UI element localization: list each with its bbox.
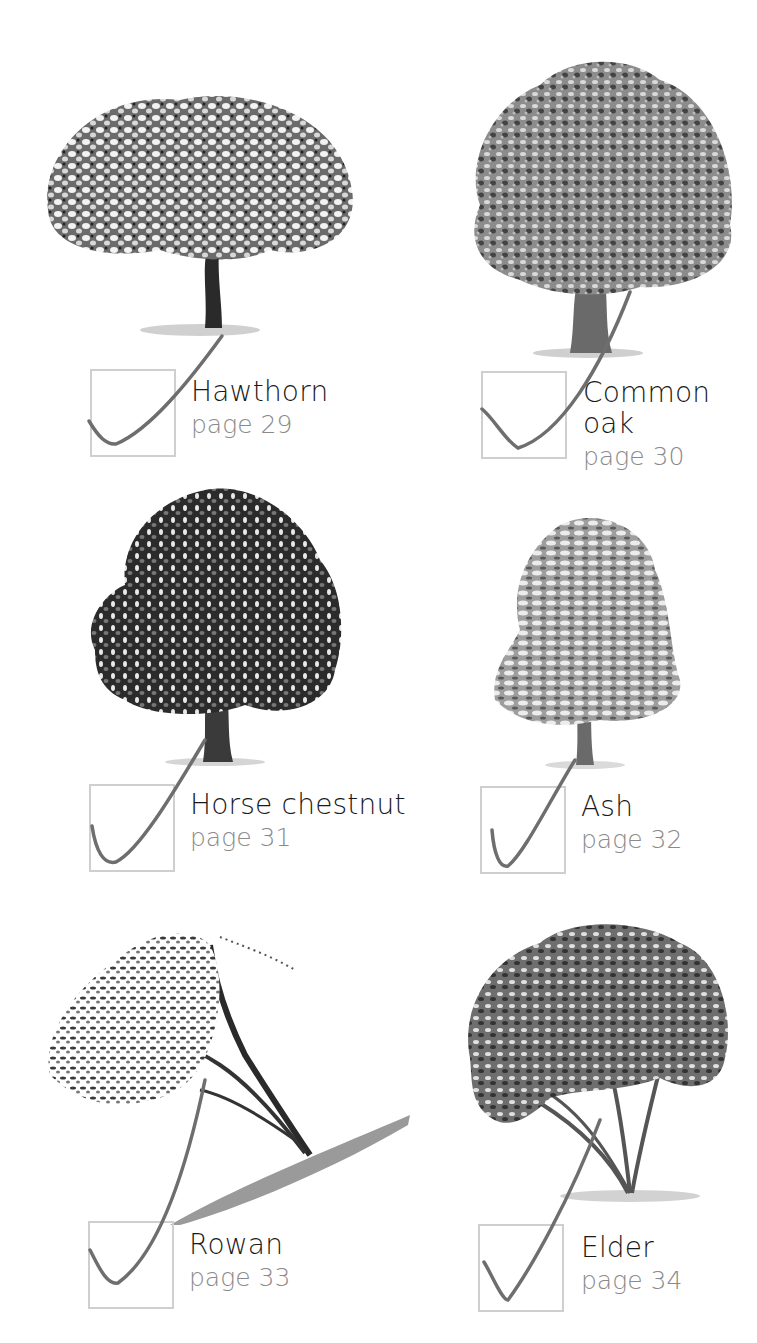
tree-name: Horse chestnut: [190, 790, 406, 821]
tree-name-line-2: oak: [583, 409, 710, 440]
label-horse-chestnut: Horse chestnut page 31: [190, 790, 406, 851]
oak-tree-illustration: [460, 55, 745, 360]
label-hawthorn: Hawthorn page 29: [191, 377, 328, 438]
rowan-tree-illustration: [40, 925, 420, 1225]
page-reference: page 33: [189, 1264, 290, 1292]
tree-name: Rowan: [189, 1230, 290, 1261]
checkbox-horse-chestnut[interactable]: [89, 784, 175, 872]
ash-tree-illustration: [490, 510, 685, 770]
checkbox-ash[interactable]: [480, 786, 566, 874]
label-elder: Elder page 34: [581, 1233, 682, 1294]
page-reference: page 30: [583, 443, 710, 471]
page-reference: page 29: [191, 411, 328, 439]
elder-tree-illustration: [460, 918, 735, 1208]
hawthorn-tree-illustration: [40, 90, 360, 340]
label-common-oak: Common oak page 30: [583, 378, 710, 470]
page-reference: page 32: [581, 826, 682, 854]
tree-name: Hawthorn: [191, 377, 328, 408]
label-rowan: Rowan page 33: [189, 1230, 290, 1291]
page-reference: page 31: [190, 824, 406, 852]
page-reference: page 34: [581, 1267, 682, 1295]
tree-name-line-1: Common: [583, 378, 710, 409]
horse-chestnut-tree-illustration: [85, 480, 350, 770]
checkbox-elder[interactable]: [478, 1224, 564, 1312]
checkbox-rowan[interactable]: [88, 1221, 174, 1309]
checkbox-hawthorn[interactable]: [90, 369, 176, 457]
tree-name: Elder: [581, 1233, 682, 1264]
label-ash: Ash page 32: [581, 792, 682, 853]
checkbox-common-oak[interactable]: [481, 371, 567, 459]
tree-name: Ash: [581, 792, 682, 823]
